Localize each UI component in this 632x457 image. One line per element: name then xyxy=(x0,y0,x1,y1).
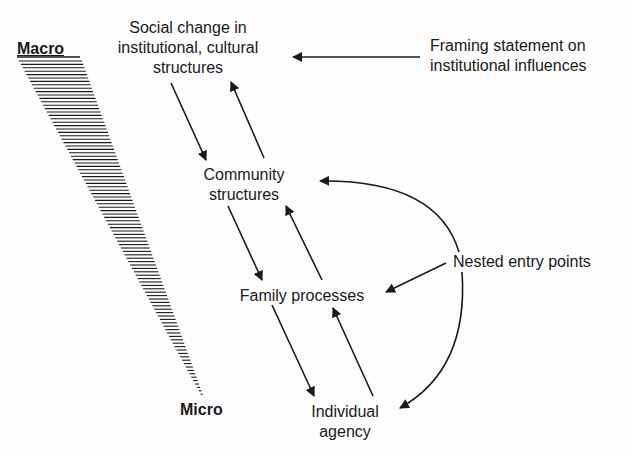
annotation-nested-entry-points: Nested entry points xyxy=(453,252,591,272)
arrow-family-to-community xyxy=(286,206,322,280)
arrow-community-to-social xyxy=(231,82,264,158)
annotation-framing-statement: Framing statement on institutional influ… xyxy=(430,36,587,76)
arrow-nested-to-community xyxy=(320,181,459,252)
node-family-processes: Family processes xyxy=(222,286,382,306)
arrow-social-to-community xyxy=(171,83,206,160)
arrow-individual-to-family xyxy=(333,308,373,396)
arrow-nested-to-individual xyxy=(400,272,463,408)
macro-micro-gradient-wedge xyxy=(19,61,203,394)
arrow-community-to-family xyxy=(228,206,262,280)
node-community-structures: Community structures xyxy=(194,165,294,205)
node-individual-agency: Individual agency xyxy=(300,402,390,442)
diagram-canvas: Macro Micro Social change in institution… xyxy=(0,0,632,457)
arrow-nested-to-family xyxy=(386,263,446,292)
arrow-family-to-individual xyxy=(272,305,314,396)
node-social-change: Social change in institutional, cultural… xyxy=(108,18,268,78)
micro-label: Micro xyxy=(180,400,223,420)
macro-label: Macro xyxy=(17,39,64,59)
